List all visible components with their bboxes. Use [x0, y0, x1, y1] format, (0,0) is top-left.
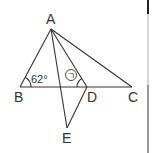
angle-label-d: ㄱ [67, 71, 75, 81]
segment-de [67, 87, 87, 128]
geometry-diagram: A B D C E 62° ㄱ [0, 0, 152, 153]
point-label-e: E [62, 130, 71, 146]
segment-ae [51, 29, 67, 128]
point-label-a: A [46, 11, 56, 27]
angle-arc-d [77, 79, 82, 88]
point-label-d: D [87, 89, 97, 105]
point-label-c: C [128, 89, 138, 105]
page-edge-line [147, 0, 149, 153]
angle-label-b: 62° [31, 73, 48, 85]
segment-ac [51, 29, 132, 87]
point-label-b: B [14, 89, 23, 105]
